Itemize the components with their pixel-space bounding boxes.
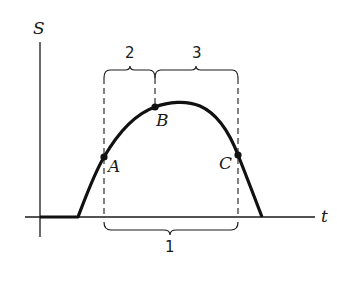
interval-label-3: 3 (192, 44, 202, 62)
interval-label-1: 1 (165, 238, 175, 256)
point-a-marker (100, 153, 107, 160)
brace-interval-3 (155, 66, 238, 78)
brace-interval-2 (104, 66, 155, 78)
y-axis-label: S (33, 18, 45, 38)
point-c-marker (234, 151, 241, 158)
signal-diagram: S t 2 3 1 A B C (0, 0, 337, 285)
x-axis-label: t (321, 206, 328, 226)
point-c-label: C (219, 153, 232, 173)
point-b-label: B (155, 110, 169, 130)
interval-label-2: 2 (125, 44, 135, 62)
point-a-label: A (106, 156, 120, 176)
brace-interval-1 (104, 222, 238, 235)
